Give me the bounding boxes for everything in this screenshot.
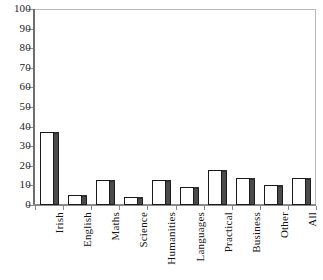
- x-axis-tick: [288, 206, 289, 210]
- bar-top-face: [110, 180, 115, 182]
- x-axis-category-label-text: Languages: [195, 212, 206, 261]
- x-axis-tick: [63, 206, 64, 210]
- bar-top-face: [278, 185, 283, 187]
- bar-body: [208, 170, 227, 205]
- x-axis-tick: [35, 206, 36, 210]
- x-axis-category-label-text: Business: [251, 212, 262, 253]
- bar-top-face: [222, 170, 227, 172]
- x-axis-category-label: Practical: [223, 212, 234, 252]
- bar-top-face: [306, 178, 311, 180]
- x-axis-category-label: Humanities: [166, 212, 177, 265]
- bar-front-face: [292, 178, 306, 205]
- bar: [208, 9, 227, 205]
- y-axis-tick-label: 70: [20, 62, 31, 73]
- bar-chart: IrishEnglishMathsScienceHumanitiesLangua…: [0, 0, 323, 280]
- bar: [124, 9, 143, 205]
- x-axis-category-label: Irish: [54, 212, 65, 233]
- x-axis-labels: IrishEnglishMathsScienceHumanitiesLangua…: [35, 212, 316, 280]
- bar-top-face: [138, 197, 143, 199]
- bar-side-face: [110, 180, 115, 205]
- x-axis-category-label: All: [307, 212, 318, 227]
- bar-front-face: [68, 195, 82, 205]
- y-axis-tick-label: 20: [20, 160, 31, 171]
- bar-top-face: [82, 195, 87, 197]
- x-axis-category-label-text: Practical: [223, 212, 234, 252]
- y-axis-tick-label: 80: [20, 42, 31, 53]
- bar-front-face: [40, 132, 54, 205]
- x-axis-tick: [91, 206, 92, 210]
- bar-body: [124, 197, 143, 205]
- bar-top-face: [250, 178, 255, 180]
- x-axis-tick: [176, 206, 177, 210]
- bar-side-face: [306, 178, 311, 205]
- bar-front-face: [236, 178, 250, 205]
- bar-body: [40, 132, 59, 205]
- bars-layer: [35, 9, 316, 205]
- y-axis-tick-label: 90: [20, 23, 31, 34]
- bar: [152, 9, 171, 205]
- x-axis-category-label-text: English: [82, 212, 93, 247]
- bar-body: [68, 195, 87, 205]
- x-axis-category-label-text: Irish: [54, 212, 65, 233]
- bar-side-face: [54, 132, 59, 205]
- x-axis-tick: [119, 206, 120, 210]
- y-axis-tick-label: 50: [20, 101, 31, 112]
- bar-front-face: [124, 197, 138, 205]
- y-axis-tick-label: 100: [14, 3, 31, 14]
- bar-side-face: [250, 178, 255, 205]
- x-axis-category-label: Science: [138, 212, 149, 248]
- x-axis-tick: [204, 206, 205, 210]
- bar-body: [292, 178, 311, 205]
- x-axis-category-label: English: [82, 212, 93, 247]
- bar-body: [264, 185, 283, 205]
- bar: [236, 9, 255, 205]
- x-axis-category-label-text: Science: [138, 212, 149, 248]
- bar-front-face: [208, 170, 222, 205]
- x-axis-category-label-text: Humanities: [166, 212, 177, 265]
- y-axis-tick-label: 60: [20, 81, 31, 92]
- bar: [292, 9, 311, 205]
- x-axis-tick: [147, 206, 148, 210]
- x-axis-tick: [316, 206, 317, 210]
- bar-side-face: [278, 185, 283, 205]
- y-axis-tick-label: 40: [20, 121, 31, 132]
- bar: [264, 9, 283, 205]
- bar: [96, 9, 115, 205]
- x-axis-category-label-text: Maths: [110, 212, 121, 241]
- bar-body: [96, 180, 115, 205]
- x-axis-tick: [232, 206, 233, 210]
- bar-side-face: [166, 180, 171, 205]
- y-axis-tick-label: 10: [20, 179, 31, 190]
- bar-top-face: [194, 187, 199, 189]
- bar-front-face: [96, 180, 110, 205]
- bar-body: [152, 180, 171, 205]
- bar-front-face: [264, 185, 278, 205]
- bar: [180, 9, 199, 205]
- bar-front-face: [152, 180, 166, 205]
- y-axis-tick-label: 0: [25, 199, 31, 210]
- x-axis-tick: [260, 206, 261, 210]
- bar-front-face: [180, 187, 194, 205]
- x-axis-category-label: Languages: [195, 212, 206, 261]
- bar-side-face: [194, 187, 199, 205]
- bar: [40, 9, 59, 205]
- x-axis-category-label: Business: [251, 212, 262, 253]
- x-axis-category-label: Maths: [110, 212, 121, 241]
- bar: [68, 9, 87, 205]
- x-axis-category-label-text: Other: [279, 212, 290, 238]
- bar-body: [180, 187, 199, 205]
- bar-top-face: [54, 132, 59, 134]
- bar-top-face: [166, 180, 171, 182]
- bar-body: [236, 178, 255, 205]
- x-axis-category-label-text: All: [307, 212, 318, 227]
- bar-side-face: [222, 170, 227, 205]
- x-axis-category-label: Other: [279, 212, 290, 238]
- y-axis-tick-label: 30: [20, 140, 31, 151]
